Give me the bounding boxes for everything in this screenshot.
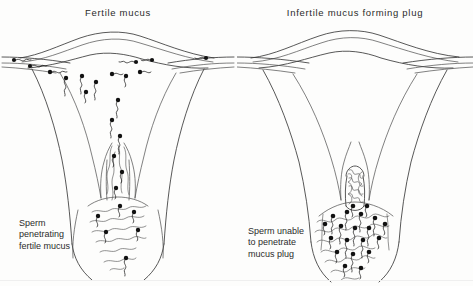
panel-infertile-mucus: Infertile mucus forming plug — [237, 0, 473, 286]
panel-fertile-mucus: Fertile mucus — [0, 0, 236, 286]
caption-fertile: Sperm penetrating fertile mucus — [19, 218, 70, 252]
caption-infertile: Sperm unable to penetrate mucus plug — [248, 226, 304, 260]
figure-sperm-mucus-comparison: Fertile mucus — [0, 0, 473, 286]
bottom-scan-rule — [0, 280, 473, 281]
